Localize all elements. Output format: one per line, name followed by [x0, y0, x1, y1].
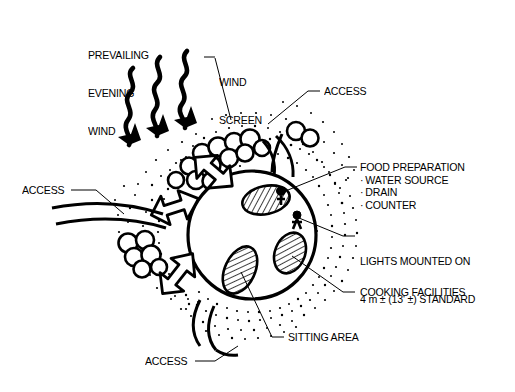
food-preparation-item: · DRAIN [360, 186, 465, 199]
label-lights-mounted: LIGHTS MOUNTED ON 4 m ± (13' ±) STANDARD [360, 230, 475, 331]
boulder [168, 172, 184, 188]
food-preparation-item: · COUNTER [360, 199, 465, 212]
label-cooking-facilities: COOKING FACILITIES [360, 286, 465, 299]
label-sitting-area: SITTING AREA [288, 331, 359, 344]
boulder [302, 130, 319, 147]
label-food-preparation: FOOD PREPARATION · WATER SOURCE · DRAIN … [360, 161, 465, 211]
boulder [134, 261, 151, 278]
food-preparation-item: · WATER SOURCE [360, 174, 465, 187]
diagram-canvas: PREVAILING EVENING WIND WIND SCREEN ACCE… [0, 0, 515, 392]
label-access-bottom: ACCESS [145, 355, 187, 368]
food-preparation-heading: FOOD PREPARATION [360, 161, 465, 174]
label-access-top: ACCESS [324, 85, 366, 98]
label-access-left: ACCESS [22, 184, 64, 197]
label-prevailing-evening-wind: PREVAILING EVENING WIND [88, 24, 149, 163]
label-wind-screen: WIND SCREEN [219, 51, 262, 152]
